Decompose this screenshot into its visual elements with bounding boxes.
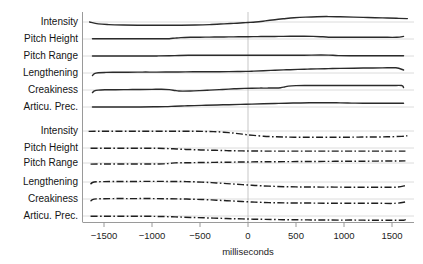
x-axis-title: milliseconds [222, 246, 274, 257]
x-tick-label-500: 500 [288, 230, 304, 241]
row-label-upper-panel-articu-prec: Articu. Prec. [24, 101, 78, 112]
prosody-feature-chart: −1500−1000−500050010001500 milliseconds … [0, 0, 423, 264]
row-label-lower-panel-creakiness: Creakiness [28, 193, 78, 204]
x-axis-tick-labels: −1500−1000−500050010001500 [91, 230, 403, 241]
x-tick-label-1500: 1500 [381, 230, 402, 241]
row-label-lower-panel-pitch-range: Pitch Range [24, 157, 79, 168]
x-tick-label-1000: 1000 [333, 230, 354, 241]
curve-upper-panel-pitch-range [92, 55, 403, 56]
curve-upper-panel-intensity [90, 17, 408, 26]
x-tick-label--1000: −1000 [139, 230, 166, 241]
row-label-upper-panel-intensity: Intensity [41, 16, 78, 27]
x-tick-label-0: 0 [245, 230, 250, 241]
x-tick-label--1500: −1500 [91, 230, 118, 241]
row-label-lower-panel-lengthening: Lengthening [23, 176, 78, 187]
row-label-lower-panel-intensity: Intensity [41, 125, 78, 136]
row-label-upper-panel-creakiness: Creakiness [28, 84, 78, 95]
x-axis-ticks [104, 223, 392, 228]
series-row-labels: IntensityPitch HeightPitch RangeLengthen… [23, 16, 78, 221]
row-label-upper-panel-pitch-range: Pitch Range [24, 50, 79, 61]
chart-canvas: −1500−1000−500050010001500 milliseconds … [0, 0, 423, 264]
x-tick-label--500: −500 [189, 230, 210, 241]
row-label-upper-panel-lengthening: Lengthening [23, 67, 78, 78]
row-label-lower-panel-pitch-height: Pitch Height [24, 142, 78, 153]
row-label-upper-panel-pitch-height: Pitch Height [24, 33, 78, 44]
row-label-lower-panel-articu-prec: Articu. Prec. [24, 210, 78, 221]
